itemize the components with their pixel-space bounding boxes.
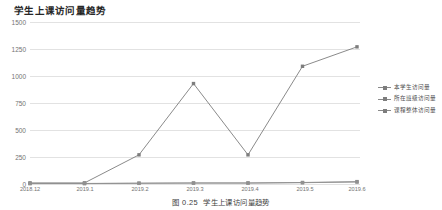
series-point — [137, 182, 140, 185]
series-point — [192, 82, 195, 85]
legend-label: 本学生访问量 — [394, 85, 430, 91]
series-point — [83, 182, 86, 185]
caption-number: 图 0.25 — [172, 198, 198, 207]
series-point — [246, 153, 249, 156]
legend-item-2[interactable]: 课程整体访问量 — [378, 107, 436, 114]
series-point — [301, 181, 304, 184]
series-point — [137, 153, 140, 156]
series-point — [355, 180, 358, 183]
legend-marker-icon — [378, 84, 391, 91]
series-point — [355, 45, 358, 48]
series-plot — [0, 0, 442, 210]
caption-text: 学生上课访问量趋势 — [203, 198, 270, 207]
series-line — [30, 47, 357, 183]
legend-item-1[interactable]: 所在班级访问量 — [378, 96, 436, 103]
legend-marker-icon — [378, 96, 391, 103]
chart-legend: 本学生访问量 所在班级访问量 课程整体访问量 — [378, 84, 436, 114]
figure-caption: 图 0.25学生上课访问量趋势 — [0, 196, 442, 207]
series-point — [28, 182, 31, 185]
legend-marker-icon — [378, 107, 391, 114]
figure-container: 学生上课访问量趋势 1500 1250 1000 750 500 250 0 2… — [0, 0, 442, 210]
series-point — [301, 65, 304, 68]
series-group — [28, 45, 358, 185]
legend-label: 所在班级访问量 — [394, 96, 436, 102]
series-point — [246, 181, 249, 184]
legend-label: 课程整体访问量 — [394, 108, 436, 114]
legend-item-0[interactable]: 本学生访问量 — [378, 84, 436, 91]
series-point — [192, 181, 195, 184]
